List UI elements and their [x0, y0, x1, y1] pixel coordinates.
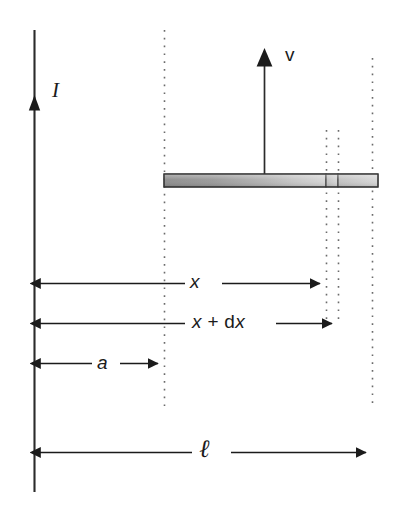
label-xdx-part-x: x: [192, 311, 202, 332]
rod-highlight-overlay: [164, 174, 378, 187]
label-distance-x: x: [190, 272, 200, 291]
diagram-canvas: [0, 0, 396, 508]
label-xdx-part-dx: x: [235, 311, 245, 332]
label-velocity-v: v: [285, 45, 295, 64]
label-current-I: I: [52, 80, 59, 101]
velocity-arrowhead: [257, 48, 273, 67]
sliding-rod-group: [164, 174, 378, 187]
physics-diagram: I v x x + dx a ℓ: [0, 0, 396, 508]
label-length-ell: ℓ: [199, 436, 209, 461]
current-direction-arrowhead: [29, 95, 40, 111]
label-distance-x-plus-dx: x + dx: [192, 312, 245, 331]
velocity-arrow-group: [257, 48, 273, 176]
label-distance-a: a: [97, 353, 108, 372]
dotted-guide-lines: [165, 30, 373, 412]
label-xdx-part-operator: + d: [202, 311, 235, 332]
current-wire-group: [29, 30, 40, 492]
